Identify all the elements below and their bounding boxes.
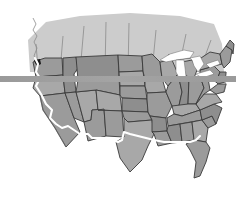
- state-idaho: [63, 57, 78, 93]
- us-map-graphic: [0, 0, 236, 198]
- state-nebraska: [120, 86, 147, 99]
- state-maryland-delaware: [210, 84, 226, 94]
- state-kansas: [122, 98, 148, 112]
- horizontal-overlay-bar: [0, 76, 236, 82]
- state-arkansas: [150, 116, 167, 132]
- state-north-dakota: [118, 55, 143, 72]
- map-figure: United States map Contiguous United Stat…: [0, 0, 236, 198]
- state-florida: [186, 140, 210, 178]
